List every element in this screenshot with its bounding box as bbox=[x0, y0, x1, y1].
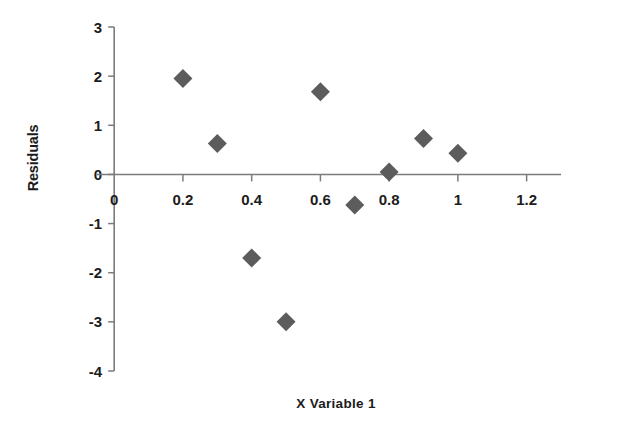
x-axis: 00.20.40.60.811.2 bbox=[97, 174, 561, 208]
x-tick-label: 0.4 bbox=[241, 191, 263, 208]
x-tick-label: 0 bbox=[110, 191, 118, 208]
data-point-marker bbox=[448, 144, 467, 163]
y-tick-label: 2 bbox=[94, 68, 102, 85]
x-tick-label: 0.6 bbox=[310, 191, 331, 208]
data-point-marker bbox=[208, 134, 227, 153]
y-tick-label: -1 bbox=[89, 215, 102, 232]
y-tick-label: -4 bbox=[89, 363, 103, 380]
data-point-marker bbox=[311, 82, 330, 101]
scatter-chart: Residuals X Variable 1 -4-3-2-10123 00.2… bbox=[0, 0, 628, 429]
x-tick-label: 1 bbox=[454, 191, 462, 208]
data-point-marker bbox=[277, 312, 296, 331]
data-point-marker bbox=[345, 195, 364, 214]
data-point-marker bbox=[414, 129, 433, 148]
x-tick-label: 0.2 bbox=[172, 191, 193, 208]
x-tick-label: 0.8 bbox=[379, 191, 400, 208]
y-tick-label: 1 bbox=[94, 117, 102, 134]
x-tick-label: 1.2 bbox=[516, 191, 537, 208]
data-point-marker bbox=[380, 162, 399, 181]
y-tick-label: -2 bbox=[89, 264, 102, 281]
data-point-marker bbox=[173, 69, 192, 88]
plot-area: -4-3-2-10123 00.20.40.60.811.2 bbox=[0, 0, 628, 429]
data-point-marker bbox=[242, 248, 261, 267]
y-tick-label: -3 bbox=[89, 313, 102, 330]
y-tick-label: 3 bbox=[94, 19, 102, 36]
